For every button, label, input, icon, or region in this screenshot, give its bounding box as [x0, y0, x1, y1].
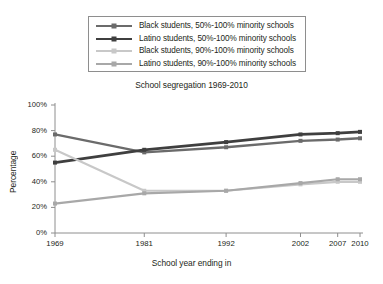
y-axis-tick-label: 60% [17, 152, 47, 160]
data-point-marker [336, 131, 340, 135]
data-point-marker [142, 148, 146, 152]
data-point-marker [224, 189, 228, 193]
data-point-marker [298, 132, 302, 136]
y-axis-tick-label: 0% [17, 229, 47, 237]
data-point-marker [358, 130, 362, 134]
chart-container: Black students, 50%-100% minority school… [0, 0, 383, 284]
data-point-marker [224, 140, 228, 144]
data-point-marker [358, 177, 362, 181]
data-point-marker [298, 139, 302, 143]
x-axis-tick-label: 1992 [206, 239, 246, 248]
data-point-marker [53, 202, 57, 206]
data-point-marker [336, 138, 340, 142]
data-point-marker [336, 177, 340, 181]
y-axis-tick-label: 80% [17, 127, 47, 135]
x-axis-tick-label: 1981 [124, 239, 164, 248]
data-point-marker [53, 161, 57, 165]
x-axis-tick-label: 1969 [35, 239, 75, 248]
x-axis-tick-label: 2002 [280, 239, 320, 248]
data-point-marker [142, 191, 146, 195]
data-point-marker [224, 145, 228, 149]
y-axis-tick-label: 20% [17, 203, 47, 211]
y-axis-tick-label: 100% [17, 101, 47, 109]
data-point-marker [53, 132, 57, 136]
y-axis-tick-label: 40% [17, 178, 47, 186]
x-axis-tick-label: 2010 [340, 239, 380, 248]
data-point-marker [53, 148, 57, 152]
data-point-marker [298, 181, 302, 185]
data-point-marker [358, 136, 362, 140]
